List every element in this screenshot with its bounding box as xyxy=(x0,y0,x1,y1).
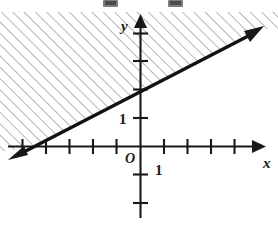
y-tick-label-1: 1 xyxy=(119,111,127,127)
origin-label: O xyxy=(125,151,135,166)
graph-figure: x y O 1 1 xyxy=(0,0,278,227)
x-tick-label-1: 1 xyxy=(155,162,163,178)
x-axis-arrow-icon xyxy=(252,140,266,153)
coordinate-plane: x y O 1 1 xyxy=(0,0,278,227)
y-axis-label: y xyxy=(119,18,128,34)
scan-artifact-right xyxy=(168,0,183,7)
scan-artifact-left xyxy=(103,0,118,7)
x-axis-label: x xyxy=(262,155,271,171)
